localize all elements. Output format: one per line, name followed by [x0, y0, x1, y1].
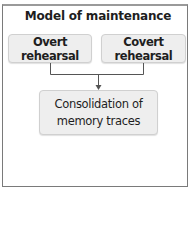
node-label-line1: Consolidation of [54, 96, 142, 113]
node-label-line2: memory traces [54, 113, 142, 130]
node-consolidation: Consolidation of memory traces [39, 90, 158, 135]
